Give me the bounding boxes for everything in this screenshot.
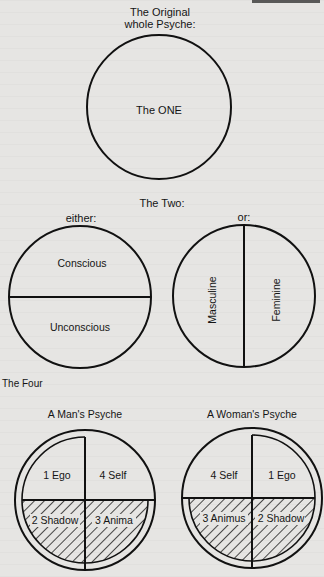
conscious-unconscious-diagram: either: Conscious Unconscious [9,212,151,368]
man-psyche-caption: A Man's Psyche [48,408,123,420]
masculine-label: Masculine [206,276,218,323]
section-one-title-line1: The Original [130,6,190,18]
man-anima-label: 3 Anima [95,514,133,526]
woman-psyche-diagram: A Woman's Psyche 4 Self 1 Ego 3 Animus 2… [182,408,322,568]
woman-shadow-label: 2 Shadow [258,512,305,524]
woman-ego-label: 1 Ego [268,469,296,481]
woman-self-label: 4 Self [211,469,238,481]
unconscious-label: Unconscious [50,321,110,333]
feminine-label: Feminine [270,278,282,321]
section-one: The Original whole Psyche: The ONE [87,6,231,179]
section-four-title: The Four [2,378,43,389]
woman-psyche-caption: A Woman's Psyche [207,408,297,420]
woman-animus-label: 3 Animus [202,512,245,524]
man-ego-label: 1 Ego [43,469,71,481]
the-one-label: The ONE [136,104,182,116]
masculine-feminine-diagram: or: Masculine Feminine [173,211,315,367]
man-self-label: 4 Self [100,469,127,481]
conscious-label: Conscious [57,257,106,269]
section-four: The Four A Man's Psyche 1 Ego 4 Self 2 S… [2,378,322,570]
section-two: The Two: either: Conscious Unconscious o… [9,197,315,368]
either-caption: either: [66,212,97,224]
or-caption: or: [238,211,251,223]
section-one-title-line2: whole Psyche: [124,18,196,30]
man-shadow-label: 2 Shadow [32,514,79,526]
psyche-diagram: The Original whole Psyche: The ONE The T… [0,0,324,577]
section-two-title: The Two: [139,197,184,209]
man-psyche-diagram: A Man's Psyche 1 Ego 4 Self 2 Shadow 3 A… [15,408,155,570]
